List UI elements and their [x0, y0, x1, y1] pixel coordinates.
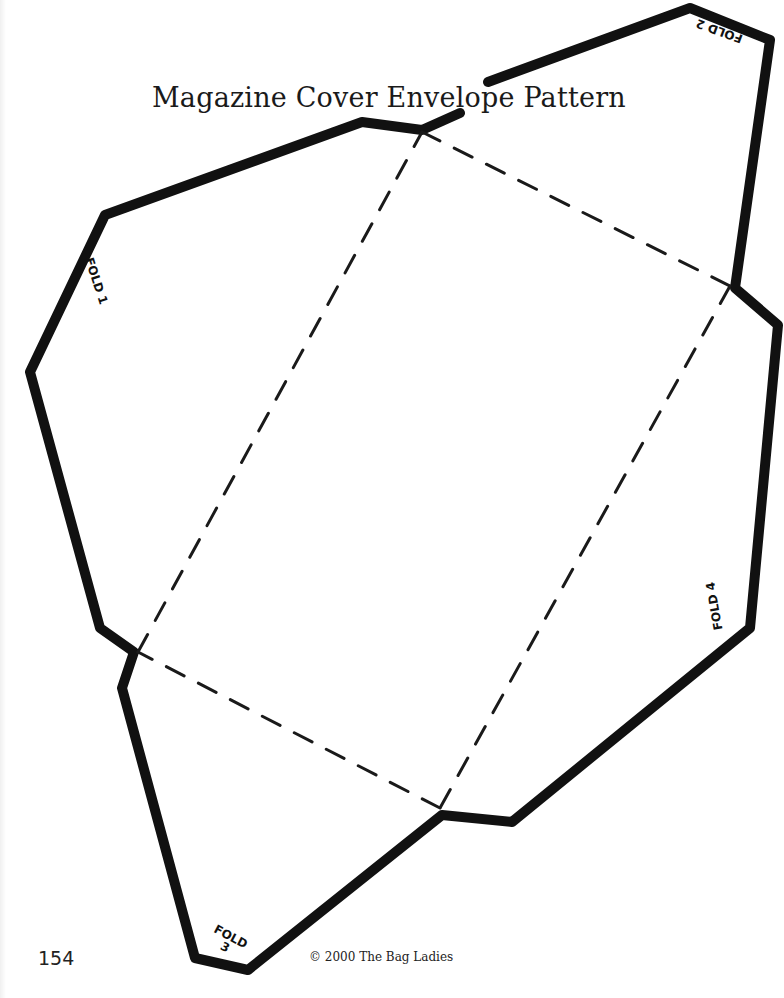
- envelope-pattern-drawing: [0, 0, 784, 998]
- cut-outline: [30, 8, 778, 970]
- page-number: 154: [38, 947, 74, 969]
- fold-lines: [138, 132, 730, 808]
- page-title: Magazine Cover Envelope Pattern: [152, 82, 626, 113]
- copyright-notice: © 2000 The Bag Ladies: [309, 950, 453, 964]
